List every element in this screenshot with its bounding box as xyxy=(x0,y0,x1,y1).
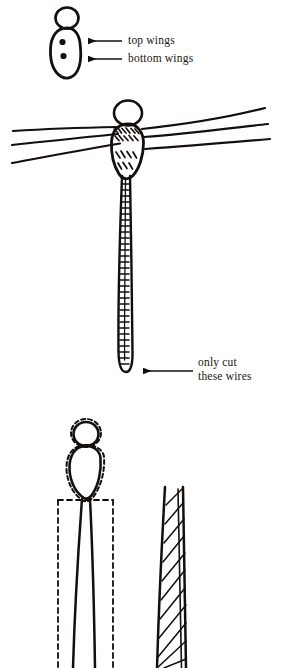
top-wing-dot xyxy=(59,39,65,45)
figure-2-assembled-insect xyxy=(12,101,270,373)
diagram-page: top wings bottom wings only cut these wi… xyxy=(0,0,283,668)
wing-wire-left-3 xyxy=(12,144,120,164)
wing-wire-right-3 xyxy=(145,139,270,149)
stem-left xyxy=(73,499,82,668)
figure-4-wrapped-shaft xyxy=(157,487,186,668)
label-only-cut: only cut these wires xyxy=(198,355,252,383)
bottom-wing-dot xyxy=(60,53,66,59)
wing-wire-left-2 xyxy=(12,134,118,145)
diagram-drawing xyxy=(0,0,283,668)
tail-inner-line xyxy=(125,180,126,360)
label-only-cut-line2: these wires xyxy=(198,369,252,383)
head-circle xyxy=(74,422,99,446)
label-top-wings: top wings xyxy=(128,33,175,47)
wing-wire-left-1 xyxy=(13,127,118,131)
wrapped-tail xyxy=(118,176,132,372)
figure-1-body-plan xyxy=(50,8,80,79)
shaft-left-edge xyxy=(157,487,165,668)
stem-right xyxy=(90,499,95,668)
figure-3-body-outline-with-cut-guide xyxy=(58,419,113,668)
head-circle xyxy=(56,8,79,29)
body-teardrop xyxy=(50,28,80,78)
head-circle xyxy=(114,101,142,126)
label-only-cut-line1: only cut xyxy=(198,356,237,368)
annotation-arrows-top xyxy=(88,41,122,59)
dashed-cut-box xyxy=(58,500,113,668)
label-bottom-wings: bottom wings xyxy=(128,51,193,65)
